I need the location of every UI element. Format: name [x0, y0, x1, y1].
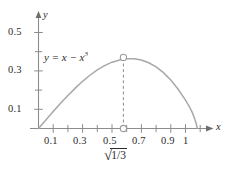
- function-curve: [39, 59, 198, 129]
- equation-term2-exponent: 3: [85, 50, 89, 58]
- axis-critical-point-marker: [120, 125, 126, 131]
- critical-point-radical-label: √1/3: [104, 148, 127, 163]
- y-tick-label-0.1: 0.1: [8, 104, 22, 115]
- equation-equals: =: [52, 51, 59, 63]
- radical-radicand: 1/3: [110, 148, 127, 162]
- x-tick-label-0.3: 0.3: [73, 136, 87, 147]
- equation-minus: −: [70, 51, 77, 63]
- x-axis-label: x: [216, 122, 221, 133]
- curve-equation-label: y=x−x3: [44, 51, 88, 63]
- equation-term1: x: [62, 51, 67, 63]
- x-axis-arrowhead: [206, 126, 214, 132]
- maximum-point-marker: [120, 54, 126, 60]
- function-plot-figure: 0.5 0.3 0.1 0.1 0.3 0.5 0.7 0.9 1 y x y=…: [0, 0, 228, 170]
- y-tick-label-0.5: 0.5: [8, 27, 22, 38]
- equation-lhs: y: [44, 51, 49, 63]
- y-tick-label-0.3: 0.3: [8, 65, 22, 76]
- y-axis-arrowhead: [36, 11, 42, 18]
- x-tick-label-0.9: 0.9: [161, 136, 175, 147]
- y-axis-label: y: [43, 10, 48, 21]
- x-tick-label-0.5: 0.5: [103, 136, 117, 147]
- x-tick-label-1: 1: [183, 136, 188, 147]
- x-tick-label-0.7: 0.7: [132, 136, 146, 147]
- x-tick-label-0.1: 0.1: [44, 136, 58, 147]
